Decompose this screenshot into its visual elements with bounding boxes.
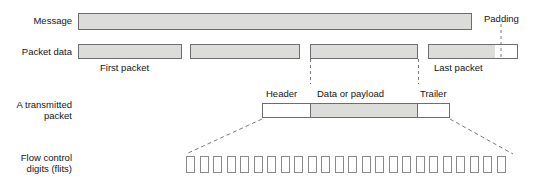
flit-box (254, 156, 263, 173)
flit-box (240, 156, 249, 173)
flit-box (470, 156, 479, 173)
flit-box (227, 156, 236, 173)
flit-box (321, 156, 330, 173)
flit-box (200, 156, 209, 173)
payload-caption: Data or payload (317, 88, 384, 99)
packet-1-bar (78, 44, 182, 59)
flit-box (416, 156, 425, 173)
flit-box (483, 156, 492, 173)
row-label-packet-data: Packet data (4, 46, 72, 57)
header-caption: Header (266, 88, 297, 99)
payload-segment (310, 103, 418, 118)
row-label-transmitted-packet-line2: packet (4, 110, 72, 121)
flit-box (456, 156, 465, 173)
row-label-flow-control-line2: digits (flits) (4, 163, 72, 174)
packet-4-data-bar (428, 44, 495, 59)
first-packet-caption: First packet (100, 62, 149, 73)
flit-box (348, 156, 357, 173)
message-bar (78, 13, 472, 30)
trailer-segment (418, 103, 450, 118)
flit-box (294, 156, 303, 173)
flit-box (375, 156, 384, 173)
flit-box (213, 156, 222, 173)
flit-box (389, 156, 398, 173)
diagram-canvas: Message Packet data A transmitted packet… (0, 0, 544, 186)
row-label-transmitted-packet-line1: A transmitted (4, 99, 72, 110)
row-label-message: Message (4, 15, 72, 26)
flit-box (267, 156, 276, 173)
padding-caption: Padding (484, 13, 519, 24)
last-packet-caption: Last packet (434, 62, 483, 73)
header-segment (262, 103, 310, 118)
flit-box (443, 156, 452, 173)
trailer-caption: Trailer (420, 88, 447, 99)
flit-box (497, 156, 506, 173)
row-label-flow-control-line1: Flow control (4, 152, 72, 163)
flit-box (429, 156, 438, 173)
flit-box (308, 156, 317, 173)
packet-2-bar (190, 44, 300, 59)
flit-box (335, 156, 344, 173)
flit-box (186, 156, 195, 173)
flit-box (402, 156, 411, 173)
flit-box (362, 156, 371, 173)
flit-box (281, 156, 290, 173)
packet-3-bar (310, 44, 418, 59)
expand-left-line (186, 119, 262, 154)
packet-4-padding-bar (495, 44, 518, 59)
expand-right-line (450, 119, 513, 154)
